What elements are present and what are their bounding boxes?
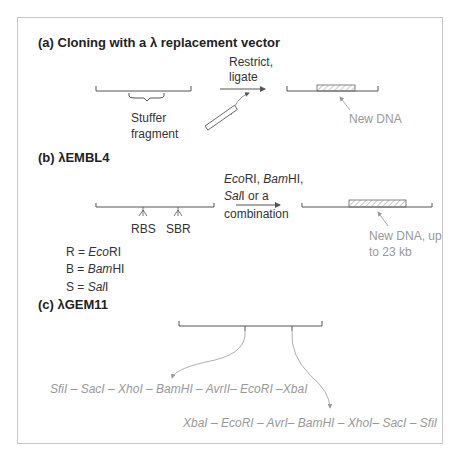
enzyme-sal-suffix: I or a [241, 189, 268, 203]
enzyme-line-2: SalI or a [224, 189, 269, 204]
enzyme-bam: Bam [263, 172, 288, 186]
enzyme-bam-suffix: HI, [288, 172, 303, 186]
panel-a-heading: (a) Cloning with a λ replacement vector [38, 35, 280, 50]
legend-r-italic: Eco [88, 245, 109, 259]
legend-r-suffix: RI [109, 245, 121, 259]
enzyme-line-3: combination [224, 207, 289, 222]
site-rbs-label: RBS [131, 222, 156, 237]
legend-s-key: S = [66, 280, 88, 294]
legend-s-suffix: I [105, 280, 108, 294]
enzyme-sal: Sal [224, 189, 241, 203]
left-site-sequence: SfiI – SacI – XhoI – BamHI – AvrII– EcoR… [50, 382, 307, 397]
new-dna-b-line1: New DNA, up [369, 229, 442, 244]
legend-r: R = EcoRI [66, 245, 121, 260]
right-site-sequence: XbaI – EcoRI – AvrI– BamHI – XhoI– SacI … [183, 416, 437, 431]
legend-s-italic: Sal [88, 280, 105, 294]
enzyme-eco: Eco [224, 172, 245, 186]
new-dna-label: New DNA [349, 112, 402, 127]
vector-a-left [96, 86, 191, 101]
legend-b-italic: Bam [88, 262, 113, 276]
site-sbr-label: SBR [166, 222, 191, 237]
panel-c-heading: (c) λGEM11 [38, 297, 108, 312]
fragment-label: fragment [131, 127, 178, 142]
new-dna-b-line2: to 23 kb [369, 245, 412, 260]
legend-s: S = SalI [66, 280, 108, 295]
legend-b-suffix: HI [112, 262, 124, 276]
enzyme-line-1: EcoRI, BamHI, [224, 172, 303, 187]
arrow-label-ligate: ligate [229, 70, 258, 85]
legend-b: B = BamHI [66, 262, 124, 277]
stuffer-label: Stuffer [131, 111, 166, 126]
arrow-label-restrict: Restrict, [229, 55, 273, 70]
legend-r-key: R = [66, 245, 88, 259]
panel-b-heading: (b) λEMBL4 [38, 150, 110, 165]
enzyme-eco-suffix: RI, [245, 172, 264, 186]
legend-b-key: B = [66, 262, 88, 276]
